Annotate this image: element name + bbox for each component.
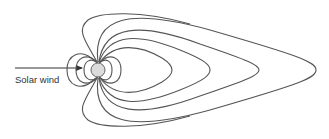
solar-wind-label: Solar wind bbox=[15, 74, 59, 85]
magnetotail-field-lines bbox=[97, 18, 316, 121]
earth-icon bbox=[91, 63, 105, 77]
magnetosphere-diagram: Solar wind bbox=[0, 0, 329, 139]
solar-wind-arrow-icon bbox=[15, 65, 83, 71]
